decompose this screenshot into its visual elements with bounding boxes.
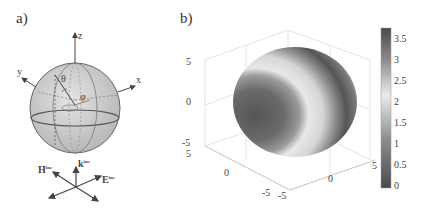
colorbar	[381, 28, 391, 188]
e-inc-label: Einc	[102, 174, 115, 185]
colorbar-tick: 2	[394, 96, 399, 107]
colorbar-tick: 3.5	[394, 33, 407, 44]
x-tick: 0	[328, 173, 333, 184]
colorbar-tick: 1.5	[394, 117, 407, 128]
e-vector-arrow	[76, 176, 101, 187]
z-axis-label: z	[78, 30, 82, 41]
sphere-body	[30, 63, 120, 153]
y-tick: 0	[224, 167, 229, 178]
colorbar-tick: 1	[394, 138, 399, 149]
y-tick: -5	[262, 187, 270, 198]
theta-label: θ	[61, 73, 66, 84]
surface-sphere	[233, 47, 357, 157]
z-tick: 5	[186, 56, 191, 67]
x-tick: 5	[372, 160, 377, 171]
h-inc-label: Hinc	[38, 164, 52, 175]
k-inc-label: kinc	[78, 158, 90, 169]
sphere-surface-plot	[170, 0, 422, 213]
panel-a-sphere-diagram: a)	[0, 0, 170, 213]
z-tick: 0	[186, 96, 191, 107]
colorbar-tick: 0.5	[394, 159, 407, 170]
y-axis-label: y	[17, 66, 22, 77]
y-tick: 5	[186, 148, 191, 159]
colorbar-tick: 2.5	[394, 75, 407, 86]
colorbar-ticks: 3.5 3 2.5 2 1.5 1 0.5 0	[394, 28, 422, 188]
colorbar-tick: 0	[394, 180, 399, 191]
colorbar-tick: 3	[394, 54, 399, 65]
sphere-diagram	[0, 0, 170, 213]
x-tick: -5	[278, 190, 286, 201]
x-axis-arrow	[118, 86, 135, 92]
h-vector-arrow	[53, 172, 76, 187]
phi-label: φ	[80, 91, 86, 102]
y-axis-arrow	[22, 78, 36, 87]
panel-b-3d-plot: b)	[170, 0, 422, 213]
z-tick: -5	[182, 137, 190, 148]
x-axis-label: x	[136, 74, 141, 85]
